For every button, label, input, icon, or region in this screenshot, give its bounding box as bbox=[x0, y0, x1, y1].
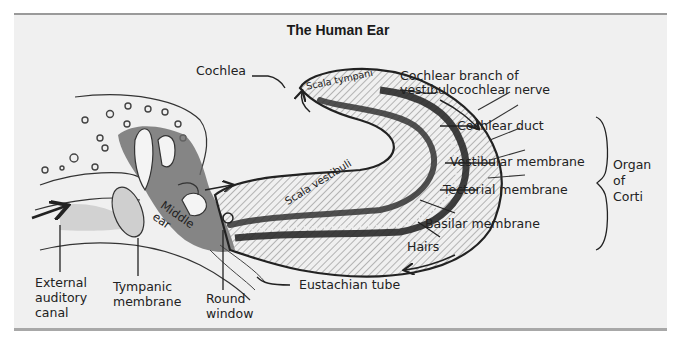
label-cochlear-duct: Cochlear duct bbox=[457, 119, 544, 133]
cochlea-shape bbox=[215, 69, 525, 277]
label-hairs: Hairs bbox=[407, 240, 439, 254]
label-tympanic-membrane: Tympanic membrane bbox=[113, 279, 181, 309]
label-cochlear-branch: Cochlear branch of vestibulocochlear ner… bbox=[400, 69, 550, 97]
label-cochlea: Cochlea bbox=[196, 64, 246, 78]
label-tectorial-membrane: Tectorial membrane bbox=[443, 183, 568, 197]
label-organ-of-corti: Organ of Corti bbox=[613, 157, 651, 205]
label-round-window: Round window bbox=[206, 291, 253, 321]
label-eustachian-tube: Eustachian tube bbox=[299, 278, 400, 292]
label-vestibular-membrane: Vestibular membrane bbox=[450, 155, 585, 169]
label-basilar-membrane: Basilar membrane bbox=[425, 217, 540, 231]
label-external-auditory-canal: External auditory canal bbox=[35, 275, 87, 320]
